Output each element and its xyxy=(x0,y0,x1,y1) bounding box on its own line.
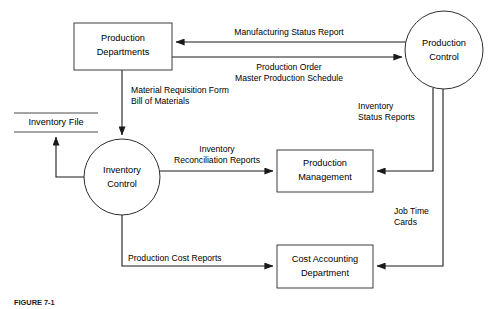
process-inventory-control-label-line2: Control xyxy=(107,179,137,189)
process-production-control-label-line1: Production xyxy=(422,38,466,48)
entity-cost-accounting-department[interactable]: Cost Accounting Department xyxy=(277,245,373,288)
flow-label-manufacturing-status-report: Manufacturing Status Report xyxy=(234,27,344,37)
entity-production-management-label-line2: Management xyxy=(298,172,352,182)
process-inventory-control[interactable]: Inventory Control xyxy=(84,139,160,215)
entity-production-departments-label-line2: Departments xyxy=(97,47,150,57)
entity-cost-accounting-department-box xyxy=(277,245,373,288)
flow-label-master-production-schedule: Master Production Schedule xyxy=(235,73,343,83)
flow-label-material-requisition-form: Material Requisition Form xyxy=(131,85,229,95)
data-store-inventory-file[interactable]: Inventory File xyxy=(14,113,98,132)
entity-production-departments-label-line1: Production xyxy=(101,33,145,43)
process-production-control[interactable]: Production Control xyxy=(405,11,483,89)
process-inventory-control-label-line1: Inventory xyxy=(103,165,141,175)
flow-label-production-order: Production Order xyxy=(256,62,322,72)
process-production-control-circle xyxy=(405,11,483,89)
diagram-canvas: Production Departments Production Manage… xyxy=(0,0,498,309)
entity-cost-accounting-department-label-line2: Department xyxy=(301,268,349,278)
entity-production-management-box xyxy=(277,150,373,192)
entity-production-departments[interactable]: Production Departments xyxy=(74,23,172,70)
flow-label-inventory-status-reports-line1: Inventory xyxy=(358,101,394,111)
data-store-inventory-file-label: Inventory File xyxy=(28,117,83,127)
entity-production-management-label-line1: Production xyxy=(303,158,347,168)
flow-label-job-time-cards-line2: Cards xyxy=(394,217,417,227)
flow-label-production-cost-reports: Production Cost Reports xyxy=(128,253,222,263)
flow-label-inventory-reconciliation-line2: Reconciliation Reports xyxy=(174,155,260,165)
process-production-control-label-line2: Control xyxy=(429,52,459,62)
flow-line-inventory-file-update xyxy=(56,137,84,177)
data-flow-diagram: Production Departments Production Manage… xyxy=(0,0,498,309)
flow-label-job-time-cards-line1: Job Time xyxy=(394,206,429,216)
entity-cost-accounting-department-label-line1: Cost Accounting xyxy=(292,254,358,264)
flow-label-inventory-status-reports-line2: Status Reports xyxy=(358,112,415,122)
process-inventory-control-circle xyxy=(84,139,160,215)
flow-label-bill-of-materials: Bill of Materials xyxy=(131,96,189,106)
flow-label-inventory-reconciliation-line1: Inventory xyxy=(199,144,235,154)
entity-production-management[interactable]: Production Management xyxy=(277,150,373,192)
figure-caption: FIGURE 7-1 xyxy=(14,298,55,307)
